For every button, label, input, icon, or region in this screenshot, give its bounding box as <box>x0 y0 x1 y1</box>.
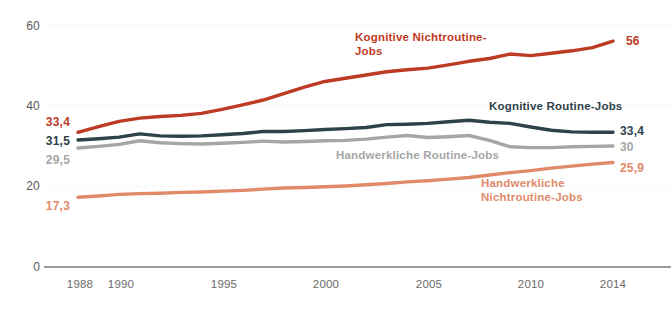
x-tick-1990: 1990 <box>108 278 134 290</box>
y-tick-40: 40 <box>6 99 40 113</box>
start-value-kognitive-nichtroutine: 33,4 <box>6 115 70 129</box>
series-lines <box>78 41 613 197</box>
end-value-handwerkliche-nichtroutine: 25,9 <box>620 161 644 175</box>
end-value-kognitive-routine: 33,4 <box>620 124 644 138</box>
x-tick-2000: 2000 <box>313 278 339 290</box>
start-value-kognitive-routine: 31,5 <box>6 134 70 148</box>
x-tick-1988: 1988 <box>67 278 93 290</box>
x-tick-1995: 1995 <box>211 278 237 290</box>
chart-plot-area: 60 40 20 0 1988 1990 1995 2000 2005 2010… <box>0 0 671 309</box>
start-value-handwerkliche-nichtroutine: 17,3 <box>6 199 70 213</box>
x-tick-2010: 2010 <box>518 278 544 290</box>
y-tick-60: 60 <box>6 19 40 33</box>
y-tick-20: 20 <box>6 179 40 193</box>
series-line <box>78 120 613 140</box>
series-label-handwerkliche-nichtroutine: Handwerkliche Nichtroutine-Jobs <box>481 176 621 204</box>
x-tick-2014: 2014 <box>600 278 626 290</box>
series-line <box>78 41 613 132</box>
end-value-handwerkliche-routine: 30 <box>620 140 634 154</box>
series-label-handwerkliche-routine: Handwerkliche Routine-Jobs <box>336 148 499 162</box>
series-label-kognitive-routine: Kognitive Routine-Jobs <box>489 99 622 113</box>
series-label-kognitive-nichtroutine: Kognitive Nichtroutine-Jobs <box>355 30 505 58</box>
y-tick-0: 0 <box>6 260 40 274</box>
x-tick-2005: 2005 <box>416 278 442 290</box>
chart-root: 60 40 20 0 1988 1990 1995 2000 2005 2010… <box>0 0 671 309</box>
start-value-handwerkliche-routine: 29,5 <box>6 153 70 167</box>
end-value-kognitive-nichtroutine: 56 <box>626 34 640 48</box>
